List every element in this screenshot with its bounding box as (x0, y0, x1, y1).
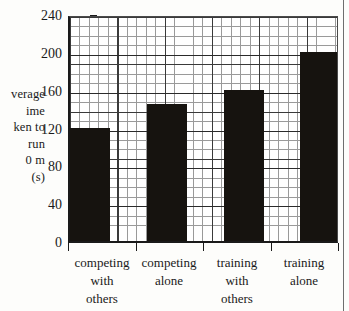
y-tick-label: 40 (28, 198, 62, 212)
y-tick-label: 120 (28, 123, 62, 137)
chart-page: verage ime ken to run 0 m (s) 0 40 80 12… (0, 0, 349, 311)
y-tick-label: 200 (28, 47, 62, 61)
bar-training-alone (300, 52, 338, 241)
x-tick-mark (203, 243, 204, 251)
gridline-80 (70, 168, 337, 169)
y-tick-label: 240 (28, 9, 62, 23)
x-tick-mark (68, 243, 69, 251)
y-tick-label: 160 (28, 85, 62, 99)
plot-area (68, 16, 338, 243)
y-tick-label: 0 (28, 236, 62, 250)
gridline-160 (70, 93, 337, 94)
x-tick-mark (338, 243, 339, 251)
gridline-200 (70, 55, 337, 56)
gridline-120 (70, 131, 337, 132)
bar-competing-with-others (70, 128, 110, 242)
bar-training-with-others (224, 90, 264, 241)
x-axis-label-training-alone: training alone (259, 254, 349, 290)
gridline-40 (70, 206, 337, 207)
graph-paper-grid (70, 17, 337, 241)
y-tick-label: 80 (28, 160, 62, 174)
x-tick-mark (271, 243, 272, 251)
bar-competing-alone (147, 104, 187, 241)
x-tick-mark (136, 243, 137, 251)
